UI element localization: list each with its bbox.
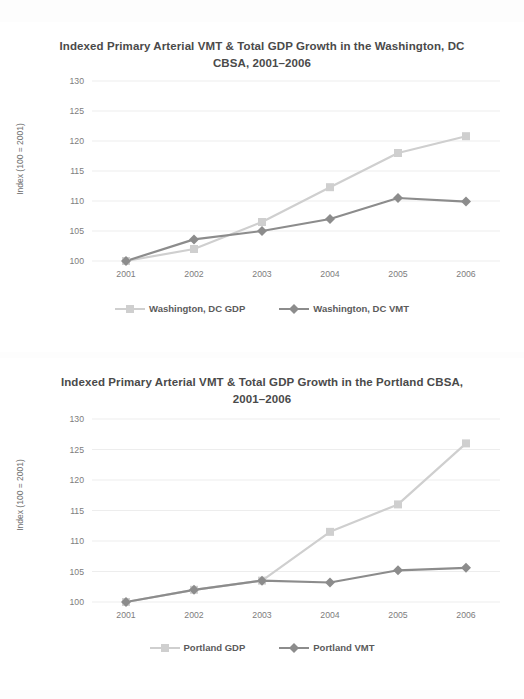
x-axis-tick-label: 2006 xyxy=(456,610,475,620)
y-axis-tick-label: 130 xyxy=(70,414,85,424)
data-point-marker xyxy=(326,528,334,536)
legend-marker-square-icon xyxy=(150,642,180,654)
data-point-marker xyxy=(325,577,335,587)
data-point-marker xyxy=(189,234,199,244)
data-point-marker xyxy=(325,214,335,224)
plot-area-portland: Index (100 = 2001) 100105110115120125130… xyxy=(0,408,524,636)
y-axis-tick-label: 105 xyxy=(70,226,85,236)
legend-item-washington-vmt[interactable]: Washington, DC VMT xyxy=(279,303,409,315)
legend-label-portland-gdp: Portland GDP xyxy=(184,642,246,654)
legend-marker-diamond-icon xyxy=(279,303,309,315)
x-axis-tick-label: 2002 xyxy=(184,610,203,620)
y-axis-tick-label: 120 xyxy=(70,136,85,146)
y-axis-tick-label: 130 xyxy=(70,76,85,86)
series-line xyxy=(126,443,466,602)
y-axis-tick-label: 110 xyxy=(70,196,84,206)
data-point-marker xyxy=(462,132,470,140)
legend-portland: Portland GDP Portland VMT xyxy=(0,636,524,654)
legend-item-portland-vmt[interactable]: Portland VMT xyxy=(279,642,374,654)
legend-item-portland-gdp[interactable]: Portland GDP xyxy=(150,642,246,654)
x-axis-tick-label: 2005 xyxy=(388,610,407,620)
legend-label-washington-vmt: Washington, DC VMT xyxy=(313,303,409,315)
y-axis-title-washington: Index (100 = 2001) xyxy=(15,89,25,229)
chart-page: Indexed Primary Arterial VMT & Total GDP… xyxy=(0,0,524,699)
x-axis-tick-label: 2002 xyxy=(184,269,203,279)
legend-marker-square-icon xyxy=(115,303,145,315)
y-axis-tick-label: 100 xyxy=(70,597,85,607)
chart-title-portland: Indexed Primary Arterial VMT & Total GDP… xyxy=(0,358,524,408)
data-point-marker xyxy=(394,149,402,157)
line-chart-portland: 1001051101151201251302001200220032004200… xyxy=(0,408,524,636)
data-point-marker xyxy=(257,226,267,236)
x-axis-tick-label: 2003 xyxy=(252,610,271,620)
x-axis-tick-label: 2004 xyxy=(320,610,339,620)
y-axis-tick-label: 105 xyxy=(70,567,85,577)
plot-area-washington: Index (100 = 2001) 100105110115120125130… xyxy=(0,72,524,297)
y-axis-title-portland: Index (100 = 2001) xyxy=(15,425,25,565)
chart-figure-portland: Indexed Primary Arterial VMT & Total GDP… xyxy=(0,358,524,690)
x-axis-tick-label: 2006 xyxy=(456,269,475,279)
series-line xyxy=(126,568,466,602)
y-axis-tick-label: 125 xyxy=(70,445,85,455)
legend-label-washington-gdp: Washington, DC GDP xyxy=(149,303,245,315)
y-axis-tick-label: 110 xyxy=(70,536,84,546)
legend-washington: Washington, DC GDP Washington, DC VMT xyxy=(0,297,524,315)
x-axis-tick-label: 2001 xyxy=(116,269,135,279)
data-point-marker xyxy=(190,245,198,253)
legend-label-portland-vmt: Portland VMT xyxy=(313,642,374,654)
y-axis-tick-label: 120 xyxy=(70,475,85,485)
line-chart-washington: 1001051101151201251302001200220032004200… xyxy=(0,72,524,297)
x-axis-tick-label: 2001 xyxy=(116,610,135,620)
x-axis-tick-label: 2003 xyxy=(252,269,271,279)
data-point-marker xyxy=(258,218,266,226)
chart-figure-washington: Indexed Primary Arterial VMT & Total GDP… xyxy=(0,22,524,352)
x-axis-tick-label: 2005 xyxy=(388,269,407,279)
legend-marker-diamond-icon xyxy=(279,642,309,654)
legend-item-washington-gdp[interactable]: Washington, DC GDP xyxy=(115,303,245,315)
data-point-marker xyxy=(326,183,334,191)
data-point-marker xyxy=(393,565,403,575)
y-axis-tick-label: 100 xyxy=(70,256,85,266)
y-axis-tick-label: 115 xyxy=(70,166,84,176)
data-point-marker xyxy=(394,500,402,508)
data-point-marker xyxy=(462,439,470,447)
data-point-marker xyxy=(461,197,471,207)
x-axis-tick-label: 2004 xyxy=(320,269,339,279)
y-axis-tick-label: 125 xyxy=(70,106,85,116)
y-axis-tick-label: 115 xyxy=(70,506,84,516)
chart-title-washington: Indexed Primary Arterial VMT & Total GDP… xyxy=(0,22,524,72)
